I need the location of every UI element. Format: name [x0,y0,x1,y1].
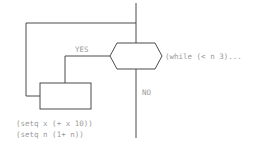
process-code-line-2: (setq n (1+ n)) [16,130,84,139]
yes-connector [65,56,110,83]
process-code-line-1: (setq x (+ x 10)) [16,119,93,128]
flowchart-canvas: YES NO (while (< n 3)... (setq x (+ x 10… [0,0,257,148]
no-label: NO [142,88,152,97]
while-decision-hexagon [110,43,162,69]
loop-back-connector [26,23,136,96]
yes-label: YES [75,45,89,54]
decision-label: (while (< n 3)... [165,52,242,61]
process-box [40,83,91,109]
